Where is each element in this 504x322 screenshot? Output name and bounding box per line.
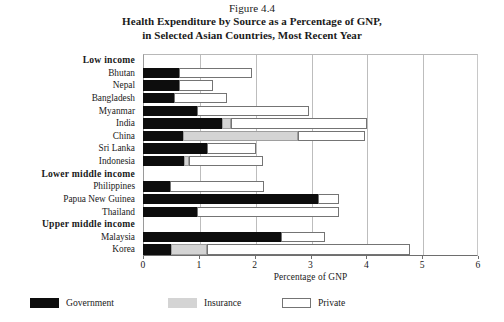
bar-row bbox=[143, 79, 478, 92]
country-label: India bbox=[0, 117, 139, 130]
chart-legend: GovernmentInsurancePrivate bbox=[30, 296, 450, 312]
bar-segment-government bbox=[143, 131, 183, 141]
x-tick-label: 1 bbox=[187, 259, 211, 271]
bar-segment-private bbox=[298, 131, 366, 141]
bar-row bbox=[143, 105, 478, 118]
country-label: Malaysia bbox=[0, 231, 139, 244]
bar-segment-insurance bbox=[183, 131, 298, 141]
bar-segment-government bbox=[143, 143, 207, 153]
bar-segment-insurance bbox=[171, 244, 206, 254]
bar-segment-private bbox=[174, 93, 227, 103]
bar-segment-government bbox=[143, 207, 197, 217]
legend-entry-government[interactable]: Government bbox=[30, 296, 114, 310]
bar-segment-government bbox=[143, 181, 170, 191]
bar-row bbox=[143, 231, 478, 244]
x-tick-label: 6 bbox=[466, 259, 490, 271]
legend-label: Government bbox=[66, 297, 114, 309]
legend-label: Insurance bbox=[204, 297, 241, 309]
country-label: Nepal bbox=[0, 79, 139, 92]
bar-row bbox=[143, 206, 478, 219]
bar-segment-private bbox=[207, 244, 411, 254]
bar-segment-government bbox=[143, 194, 318, 204]
x-tick-label: 3 bbox=[299, 259, 323, 271]
legend-entry-private[interactable]: Private bbox=[282, 296, 345, 310]
bar-row bbox=[143, 67, 478, 80]
x-axis-title: Percentage of GNP bbox=[143, 271, 478, 283]
country-label: Papua New Guinea bbox=[0, 193, 139, 206]
legend-label: Private bbox=[318, 297, 345, 309]
income-group-label: Lower middle income bbox=[0, 168, 139, 181]
country-label: Korea bbox=[0, 243, 139, 256]
bar-row bbox=[143, 130, 478, 143]
bar-segment-private bbox=[197, 207, 339, 217]
bar-segment-government bbox=[143, 106, 197, 116]
country-label: China bbox=[0, 130, 139, 143]
bar-segment-private bbox=[207, 143, 257, 153]
x-tick-label: 4 bbox=[354, 259, 378, 271]
country-label: Indonesia bbox=[0, 155, 139, 168]
bar-row bbox=[143, 243, 478, 256]
bar-segment-private bbox=[231, 118, 367, 128]
bar-row bbox=[143, 92, 478, 105]
bar-segment-private bbox=[189, 156, 263, 166]
category-axis-labels: Low incomeBhutanNepalBangladeshMyanmarIn… bbox=[0, 54, 139, 256]
gray-filled-swatch bbox=[168, 298, 197, 308]
bar-chart: Low incomeBhutanNepalBangladeshMyanmarIn… bbox=[0, 0, 504, 322]
bar-segment-government bbox=[143, 118, 222, 128]
bar-segment-insurance bbox=[222, 118, 231, 128]
country-label: Bhutan bbox=[0, 67, 139, 80]
bar-segment-private bbox=[170, 181, 264, 191]
income-group-label: Upper middle income bbox=[0, 218, 139, 231]
bar-segment-government bbox=[143, 68, 179, 78]
bar-segment-private bbox=[179, 80, 213, 90]
black-filled-swatch bbox=[30, 298, 59, 308]
bar-row bbox=[143, 155, 478, 168]
country-label: Myanmar bbox=[0, 105, 139, 118]
bar-segment-government bbox=[143, 93, 174, 103]
bar-segment-government bbox=[143, 80, 179, 90]
bar-row bbox=[143, 193, 478, 206]
country-label: Philippines bbox=[0, 180, 139, 193]
legend-entry-insurance[interactable]: Insurance bbox=[168, 296, 241, 310]
x-tick-label: 0 bbox=[131, 259, 155, 271]
bar-row bbox=[143, 180, 478, 193]
bar-segment-private bbox=[318, 194, 339, 204]
country-label: Thailand bbox=[0, 206, 139, 219]
bar-segment-private bbox=[179, 68, 252, 78]
bar-segment-government bbox=[143, 156, 184, 166]
bar-segment-government bbox=[143, 244, 171, 254]
country-label: Bangladesh bbox=[0, 92, 139, 105]
bar-segment-government bbox=[143, 232, 281, 242]
bar-segment-private bbox=[197, 106, 309, 116]
income-group-label: Low income bbox=[0, 54, 139, 67]
bar-rows bbox=[143, 54, 478, 256]
country-label: Sri Lanka bbox=[0, 142, 139, 155]
value-axis-ticks: 0123456 bbox=[0, 256, 504, 272]
x-tick-label: 2 bbox=[243, 259, 267, 271]
white-outlined-swatch bbox=[282, 298, 311, 308]
x-tick-label: 5 bbox=[410, 259, 434, 271]
bar-row bbox=[143, 142, 478, 155]
bar-segment-private bbox=[281, 232, 325, 242]
bar-row bbox=[143, 117, 478, 130]
